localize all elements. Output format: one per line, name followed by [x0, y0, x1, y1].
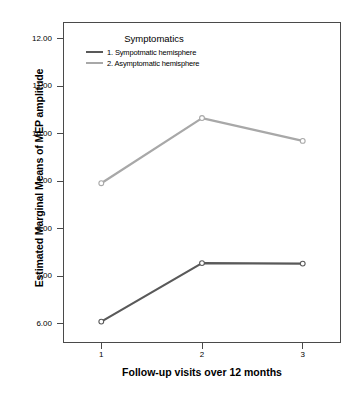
- y-tick-mark: [57, 276, 63, 277]
- y-tick-label: 6.00: [12, 319, 52, 328]
- y-tick-mark: [57, 323, 63, 324]
- y-tick-label: 10.00: [12, 129, 52, 138]
- y-tick-mark: [57, 181, 63, 182]
- x-tick-label: 3: [288, 350, 318, 359]
- y-tick-label: 12.00: [12, 34, 52, 43]
- legend-title: Symptomatics: [90, 33, 218, 44]
- x-tick-mark: [302, 343, 303, 349]
- x-tick-label: 2: [187, 350, 217, 359]
- plot-area: [63, 22, 341, 343]
- legend-label: 2. Asymptomatic hemisphere: [107, 59, 199, 68]
- legend-label: 1. Sympotmatic hemisphere: [107, 48, 196, 57]
- x-tick-mark: [202, 343, 203, 349]
- y-tick-mark: [57, 133, 63, 134]
- legend-entry-2: 2. Asymptomatic hemisphere: [86, 58, 246, 68]
- y-tick-label: 11.00: [12, 81, 52, 90]
- y-tick-mark: [57, 228, 63, 229]
- x-axis-title: Follow-up visits over 12 months: [63, 366, 341, 378]
- legend-swatch-icon: [86, 51, 103, 54]
- y-tick-label: 8.00: [12, 224, 52, 233]
- legend: Symptomatics 1. Sympotmatic hemisphere2.…: [86, 33, 246, 69]
- y-tick-mark: [57, 86, 63, 87]
- y-tick-label: 7.00: [12, 271, 52, 280]
- x-tick-mark: [101, 343, 102, 349]
- legend-entry-1: 1. Sympotmatic hemisphere: [86, 47, 246, 57]
- y-tick-mark: [57, 38, 63, 39]
- y-tick-label: 9.00: [12, 176, 52, 185]
- x-tick-label: 1: [86, 350, 116, 359]
- legend-swatch-icon: [86, 62, 103, 65]
- legend-entries: 1. Sympotmatic hemisphere2. Asymptomatic…: [86, 47, 246, 68]
- chart-figure: Estimated Marginal Means of MEP amplitud…: [0, 0, 361, 396]
